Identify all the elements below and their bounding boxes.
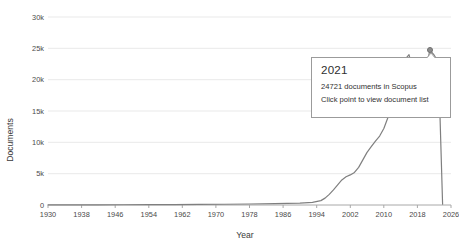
y-tick-label: 15k bbox=[32, 107, 44, 116]
x-tick-label: 2026 bbox=[443, 210, 459, 219]
y-tick-label: 30k bbox=[32, 13, 44, 22]
x-tick-label: 1954 bbox=[141, 210, 157, 219]
tooltip-pointer-icon bbox=[426, 53, 436, 58]
x-tick-label: 2002 bbox=[342, 210, 358, 219]
x-tick-label: 1970 bbox=[208, 210, 224, 219]
data-point-tooltip[interactable]: 2021 24721 documents in Scopus Click poi… bbox=[311, 57, 451, 118]
tooltip-hint-text: Click point to view document list bbox=[321, 94, 442, 107]
x-tick-label: 1938 bbox=[73, 210, 89, 219]
x-tick-label: 1946 bbox=[107, 210, 123, 219]
x-axis-title: Year bbox=[236, 230, 254, 240]
y-tick-label: 20k bbox=[32, 75, 44, 84]
x-tick-label: 1994 bbox=[308, 210, 324, 219]
x-tick-label: 1930 bbox=[40, 210, 56, 219]
x-tick-label: 1986 bbox=[275, 210, 291, 219]
chart-canvas: 30k 25k 20k 15k 10k 5k 0 Documents bbox=[0, 0, 459, 249]
y-tick-label: 5k bbox=[36, 169, 44, 178]
y-tick-label: 0 bbox=[40, 201, 44, 210]
x-tick-label: 1962 bbox=[174, 210, 190, 219]
x-tick-label: 1978 bbox=[241, 210, 257, 219]
tooltip-document-count: 24721 documents in Scopus bbox=[321, 81, 442, 94]
y-tick-label: 25k bbox=[32, 44, 44, 53]
x-tick-label: 2010 bbox=[376, 210, 392, 219]
x-tick-label: 2018 bbox=[409, 210, 425, 219]
tooltip-year-title: 2021 bbox=[321, 63, 442, 77]
y-tick-label: 10k bbox=[32, 138, 44, 147]
x-axis-tick-labels: 1930 1938 1946 1954 1962 1970 1978 1986 … bbox=[40, 210, 459, 219]
y-axis-tick-labels: 30k 25k 20k 15k 10k 5k 0 bbox=[32, 13, 44, 210]
y-axis-title: Documents bbox=[5, 118, 15, 161]
documents-per-year-chart: 30k 25k 20k 15k 10k 5k 0 Documents bbox=[0, 0, 459, 249]
